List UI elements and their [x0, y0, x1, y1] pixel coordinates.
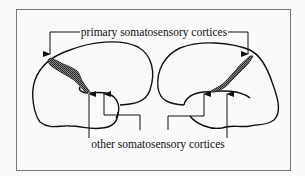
left-primary-cortex-shading [48, 58, 90, 93]
other-leader-lines [89, 94, 227, 138]
left-hemisphere [33, 42, 153, 129]
other-cortices-label: other somatosensory cortices [91, 138, 225, 151]
left-brain-outline [33, 42, 153, 129]
left-other-leader-2 [104, 94, 140, 130]
left-primary-leader [50, 32, 80, 54]
primary-cortices-label: primary somatosensory cortices [81, 26, 228, 39]
somatosensory-diagram: primary somatosensory cortices other som… [0, 0, 305, 176]
right-temporal-lobe [184, 91, 250, 105]
right-primary-leader [228, 32, 248, 54]
right-primary-cortex-shading [210, 56, 253, 92]
